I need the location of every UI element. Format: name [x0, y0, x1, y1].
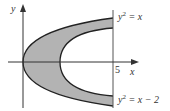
y-axis-arrow-icon: [20, 4, 26, 12]
region-diagram: y x 5 y2 = x y2 = x − 2: [0, 0, 170, 111]
label-outer-curve: y2 = x: [117, 10, 143, 22]
y-axis-label: y: [10, 3, 16, 14]
tick-label-5: 5: [115, 64, 120, 75]
x-axis-arrow-icon: [131, 59, 139, 65]
x-axis-label: x: [129, 66, 135, 77]
label-inner-curve: y2 = x − 2: [117, 93, 159, 105]
